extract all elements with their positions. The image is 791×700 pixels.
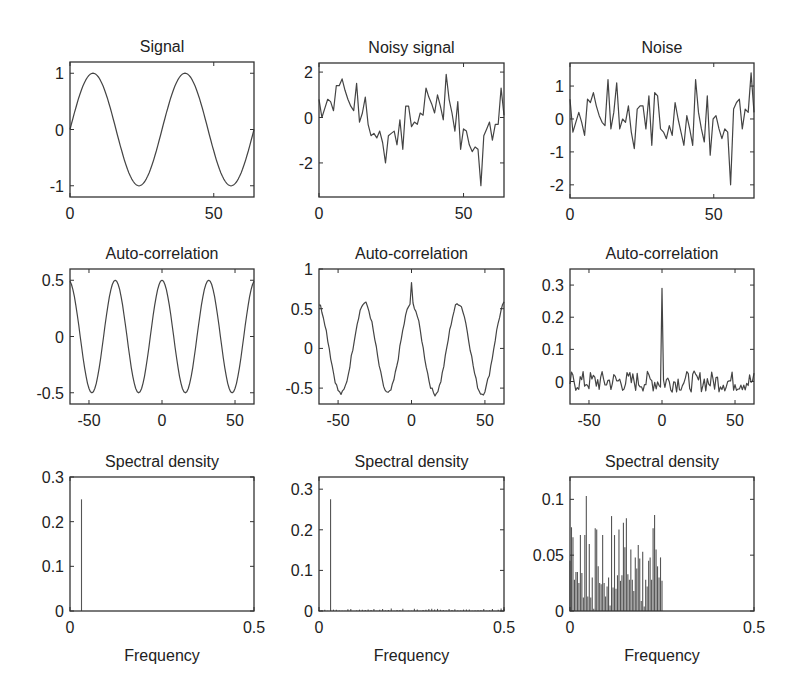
x-tick-label: 50 [476, 412, 494, 429]
y-tick-label: 1 [555, 78, 564, 95]
y-tick-label: 0 [55, 603, 64, 620]
y-tick-label: 0 [304, 340, 313, 357]
y-tick-label: 1 [55, 65, 64, 82]
y-tick-label: -2 [550, 177, 564, 194]
x-tick-label: 0 [66, 619, 75, 636]
x-tick-label: 0 [315, 619, 324, 636]
y-tick-label: 0 [304, 603, 313, 620]
x-tick-label: 0 [566, 206, 575, 223]
subplot-title: Auto-correlation [106, 245, 219, 262]
subplot-signal-autocorr: Auto-correlation-50050-0.500.5 [36, 245, 254, 429]
x-axis-label: Frequency [124, 647, 200, 664]
y-tick-label: 0.2 [542, 309, 564, 326]
subplot-noisy-signal: Noisy signal050-202 [299, 39, 504, 222]
axes-box [70, 477, 254, 611]
subplot-signal: Signal050-101 [50, 38, 254, 222]
subplot-title: Noisy signal [368, 39, 454, 56]
y-tick-label: -1 [550, 144, 564, 161]
data-trace [70, 73, 254, 186]
axes-box [319, 477, 504, 611]
y-tick-label: 0 [55, 329, 64, 346]
data-trace [570, 288, 754, 392]
y-tick-label: 0.1 [542, 341, 564, 358]
data-trace [570, 73, 754, 185]
x-tick-label: 50 [455, 205, 473, 222]
y-tick-label: 0.5 [291, 301, 313, 318]
subplot-title: Spectral density [105, 453, 219, 470]
x-tick-label: 0 [158, 412, 167, 429]
data-trace [70, 280, 254, 393]
axes-box [70, 269, 254, 404]
x-tick-label: 0 [658, 412, 667, 429]
y-tick-label: 0.1 [542, 491, 564, 508]
data-trace [319, 74, 504, 185]
y-tick-label: 0.3 [42, 469, 64, 486]
x-tick-label: -50 [327, 412, 350, 429]
x-tick-label: 50 [226, 412, 244, 429]
y-tick-label: 0 [304, 110, 313, 127]
axes-box [319, 63, 504, 197]
y-tick-label: 0.5 [42, 272, 64, 289]
subplot-title: Noise [642, 39, 683, 56]
subplot-title: Auto-correlation [355, 245, 468, 262]
x-tick-label: 50 [705, 206, 723, 223]
y-tick-label: -1 [50, 178, 64, 195]
x-tick-label: 0 [315, 205, 324, 222]
y-tick-label: -0.5 [285, 380, 313, 397]
y-tick-label: 0 [555, 374, 564, 391]
y-tick-label: 0 [555, 111, 564, 128]
y-tick-label: 0.1 [42, 558, 64, 575]
x-tick-label: 0.5 [493, 619, 515, 636]
y-tick-label: 2 [304, 64, 313, 81]
x-tick-label: -50 [577, 412, 600, 429]
x-tick-label: 0 [566, 619, 575, 636]
y-tick-label: -0.5 [36, 385, 64, 402]
x-tick-label: 50 [205, 205, 223, 222]
subplot-noise: Noise050-2-101 [550, 39, 754, 223]
y-tick-label: 0 [555, 603, 564, 620]
subplot-noisy-autocorr: Auto-correlation-50050-0.500.51 [285, 245, 504, 429]
x-tick-label: 50 [726, 412, 744, 429]
y-tick-label: 1 [304, 261, 313, 278]
y-tick-label: 0.2 [42, 514, 64, 531]
x-tick-label: 0 [407, 412, 416, 429]
y-tick-label: 0.2 [291, 522, 313, 539]
y-tick-label: 0.3 [291, 481, 313, 498]
x-tick-label: 0 [66, 205, 75, 222]
x-axis-label: Frequency [624, 647, 700, 664]
x-tick-label: 0.5 [743, 619, 765, 636]
figure: Signal050-101Noisy signal050-202Noise050… [0, 0, 791, 700]
subplot-title: Auto-correlation [606, 245, 719, 262]
y-tick-label: -2 [299, 155, 313, 172]
subplot-signal-psd: Spectral density00.500.10.20.3Frequency [42, 453, 265, 664]
y-tick-label: 0.05 [533, 547, 564, 564]
y-tick-label: 0.1 [291, 562, 313, 579]
x-axis-label: Frequency [374, 647, 450, 664]
subplot-title: Spectral density [355, 453, 469, 470]
x-tick-label: 0.5 [243, 619, 265, 636]
y-tick-label: 0 [55, 122, 64, 139]
subplot-noise-autocorr: Auto-correlation-5005000.10.20.3 [542, 245, 754, 429]
data-trace [319, 283, 504, 396]
subplot-noisy-psd: Spectral density00.500.10.20.3Frequency [291, 453, 515, 664]
x-tick-label: -50 [77, 412, 100, 429]
subplot-title: Spectral density [605, 453, 719, 470]
subplot-title: Signal [140, 38, 184, 55]
subplot-noise-psd: Spectral density00.500.050.1Frequency [533, 453, 765, 664]
y-tick-label: 0.3 [542, 277, 564, 294]
